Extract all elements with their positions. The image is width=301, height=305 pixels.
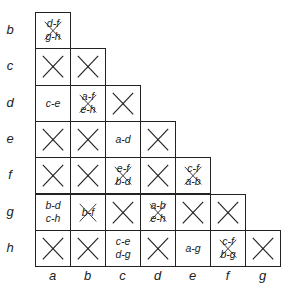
- cell-g-b: b-f: [70, 194, 106, 231]
- row-label-h: h: [0, 230, 20, 266]
- cell-h-g: [245, 230, 281, 267]
- implied-pair: a-g: [176, 242, 210, 254]
- cell-e-c: a-d: [105, 121, 141, 158]
- x-mark-icon: [71, 49, 105, 84]
- cell-f-d: [140, 157, 176, 194]
- cell-d-a: c-e: [35, 85, 71, 122]
- cell-g-e: [175, 194, 211, 231]
- row-label-e: e: [0, 121, 20, 157]
- cell-f-e: c-fa-b: [175, 157, 211, 194]
- x-mark-icon: [141, 158, 175, 193]
- cell-g-f: [210, 194, 246, 231]
- x-mark-icon: [36, 231, 70, 266]
- x-mark-icon: [246, 231, 280, 266]
- x-mark-icon: [36, 122, 70, 157]
- implied-pair: a-d: [106, 133, 140, 145]
- cross-out-icon: [211, 231, 245, 266]
- col-label-d: d: [140, 268, 175, 283]
- row-label-d: d: [0, 85, 20, 121]
- cell-g-c: [105, 194, 141, 231]
- cell-c-b: [70, 48, 106, 85]
- cell-d-c: [105, 85, 141, 122]
- cell-h-a: [35, 230, 71, 267]
- col-label-e: e: [175, 268, 210, 283]
- cell-f-c: e-fb-d: [105, 157, 141, 194]
- x-mark-icon: [71, 122, 105, 157]
- cross-out-icon: [176, 158, 210, 193]
- cell-e-d: [140, 121, 176, 158]
- row-label-f: f: [0, 157, 20, 193]
- row-label-g: g: [0, 194, 20, 230]
- x-mark-icon: [106, 86, 140, 121]
- cell-e-a: [35, 121, 71, 158]
- x-mark-icon: [211, 195, 245, 230]
- cross-out-icon: [36, 13, 70, 48]
- row-label-c: c: [0, 48, 20, 84]
- cell-h-c: c-ed-g: [105, 230, 141, 267]
- x-mark-icon: [141, 122, 175, 157]
- col-label-c: c: [105, 268, 140, 283]
- col-label-g: g: [245, 268, 280, 283]
- cell-e-b: [70, 121, 106, 158]
- cell-h-e: a-g: [175, 230, 211, 267]
- row-label-b: b: [0, 12, 20, 48]
- implied-pair: b-d: [36, 199, 70, 211]
- cell-f-a: [35, 157, 71, 194]
- cell-g-a: b-dc-h: [35, 194, 71, 231]
- implied-pair: c-e: [106, 235, 140, 247]
- cross-out-icon: [71, 86, 105, 121]
- cross-out-icon: [141, 195, 175, 230]
- implied-pair: c-h: [36, 212, 70, 224]
- cell-f-b: [70, 157, 106, 194]
- x-mark-icon: [106, 195, 140, 230]
- cell-h-f: c-fb-g: [210, 230, 246, 267]
- cell-b-a: d-fg-h: [35, 12, 71, 49]
- col-label-b: b: [70, 268, 105, 283]
- cross-out-icon: [106, 158, 140, 193]
- x-mark-icon: [36, 49, 70, 84]
- col-label-f: f: [210, 268, 245, 283]
- x-mark-icon: [36, 158, 70, 193]
- implied-pair: c-e: [36, 97, 70, 109]
- col-label-a: a: [35, 268, 70, 283]
- cell-h-d: [140, 230, 176, 267]
- cell-c-a: [35, 48, 71, 85]
- cross-out-icon: [71, 195, 105, 230]
- x-mark-icon: [176, 195, 210, 230]
- implied-pair: d-g: [106, 248, 140, 260]
- x-mark-icon: [71, 231, 105, 266]
- cell-h-b: [70, 230, 106, 267]
- cell-d-b: a-fe-h: [70, 85, 106, 122]
- x-mark-icon: [141, 231, 175, 266]
- cell-g-d: a-be-h: [140, 194, 176, 231]
- x-mark-icon: [71, 158, 105, 193]
